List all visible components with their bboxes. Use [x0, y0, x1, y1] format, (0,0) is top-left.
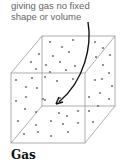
cube-edges: [11, 36, 115, 143]
gas-particles: [15, 39, 113, 137]
arrow-curve: [59, 22, 89, 102]
diagram-title: Gas: [11, 148, 36, 162]
gas-cube-diagram: [0, 0, 124, 168]
